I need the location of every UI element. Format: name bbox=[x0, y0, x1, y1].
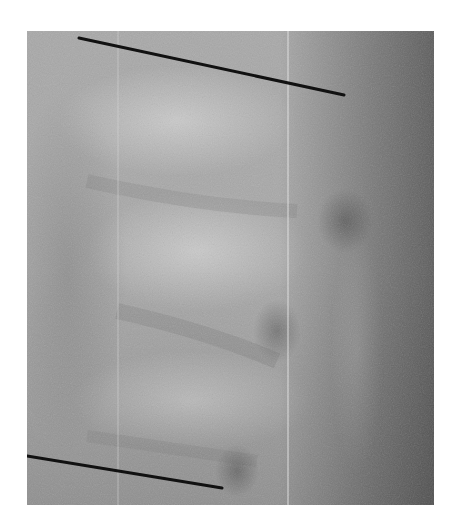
radiograph-canvas bbox=[27, 31, 434, 505]
radiograph-image bbox=[27, 31, 434, 505]
